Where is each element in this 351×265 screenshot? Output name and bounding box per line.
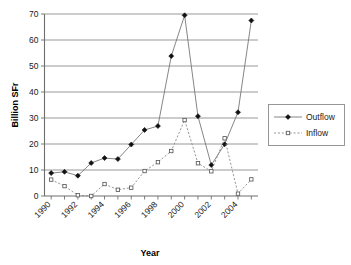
line-chart-figure: 010203040506070 199019921994199619982000… — [0, 0, 351, 265]
data-point-marker — [236, 192, 239, 195]
y-axis-title: Billion SFr — [10, 82, 20, 127]
data-point-marker — [249, 18, 254, 23]
data-point-marker — [156, 161, 159, 164]
data-point-marker — [102, 156, 107, 161]
legend-swatch-marker — [286, 131, 289, 134]
data-point-marker — [183, 118, 186, 121]
data-point-marker — [103, 182, 106, 185]
y-axis-tick-labels-group: 010203040506070 — [29, 9, 39, 201]
series-line-outflow — [51, 15, 251, 175]
data-point-marker — [170, 149, 173, 152]
x-tick-label: 2000 — [166, 199, 187, 220]
data-point-marker — [76, 194, 79, 197]
y-tick-label: 70 — [29, 9, 39, 19]
data-point-marker — [63, 184, 66, 187]
x-axis-tick-labels-group: 19901992199419961998200020022004 — [32, 199, 239, 220]
gridlines-group — [45, 14, 259, 170]
data-point-marker — [90, 194, 93, 197]
x-axis-title: Year — [140, 248, 160, 258]
data-point-marker — [130, 186, 133, 189]
legend-label-inflow: Inflow — [306, 128, 329, 138]
y-tick-label: 30 — [29, 113, 39, 123]
y-tick-label: 50 — [29, 61, 39, 71]
chart-legend: OutflowInflow — [269, 105, 345, 146]
data-point-marker — [235, 110, 240, 115]
y-tick-label: 40 — [29, 87, 39, 97]
x-tick-label: 1994 — [86, 199, 107, 220]
x-tick-label: 1996 — [112, 199, 133, 220]
x-tick-label: 1992 — [59, 199, 80, 220]
x-tick-label: 1998 — [139, 199, 160, 220]
data-point-marker — [250, 178, 253, 181]
x-tick-label: 2002 — [192, 199, 213, 220]
x-tick-label: 2004 — [219, 199, 240, 220]
data-point-marker — [155, 124, 160, 129]
y-tick-label: 60 — [29, 35, 39, 45]
data-point-marker — [196, 162, 199, 165]
data-point-marker — [209, 163, 214, 168]
y-tick-label: 10 — [29, 165, 39, 175]
legend-border — [269, 105, 345, 146]
data-point-marker — [223, 137, 226, 140]
y-tick-label: 20 — [29, 139, 39, 149]
chart-canvas: 010203040506070 199019921994199619982000… — [0, 0, 351, 265]
data-point-marker — [143, 169, 146, 172]
series-line-inflow — [51, 120, 251, 196]
data-point-marker — [210, 170, 213, 173]
data-point-marker — [169, 54, 174, 59]
data-point-marker — [49, 178, 52, 181]
x-tick-label: 1990 — [32, 199, 53, 220]
y-tick-label: 0 — [34, 191, 39, 201]
data-point-marker — [116, 188, 119, 191]
data-point-marker — [49, 171, 54, 176]
legend-label-outflow: Outflow — [306, 112, 336, 122]
